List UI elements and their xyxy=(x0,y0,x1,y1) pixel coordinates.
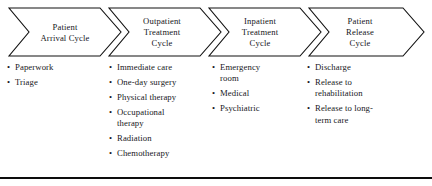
list-item-line: Release to long- xyxy=(315,103,417,114)
detail-column-outpatient-treatment-cycle: • Immediate care • One-day surgery • Phy… xyxy=(109,62,209,163)
list-item: • Physical therapy xyxy=(109,92,209,103)
bullet-dot-icon: • xyxy=(7,62,10,73)
chevron-stage-band: Patient Arrival Cycle Outpatient Treatme… xyxy=(0,0,432,62)
list-item: • Radiation xyxy=(109,133,209,144)
list-item: • Triage xyxy=(7,77,105,88)
process-flow-diagram: Patient Arrival Cycle Outpatient Treatme… xyxy=(0,0,432,186)
chevron-shape-stage-1[interactable] xyxy=(9,8,121,56)
list-item-line: Chemotherapy xyxy=(117,148,209,159)
list-item-line: rehabilitation xyxy=(315,88,417,99)
bullet-dot-icon: • xyxy=(109,133,112,144)
list-item-line: term care xyxy=(315,115,417,126)
chevron-shape-stage-4[interactable] xyxy=(309,8,424,56)
list-item: • Release to long- term care xyxy=(307,103,417,126)
chevron-shape-stage-2[interactable] xyxy=(109,8,221,56)
list-item-line: Occupational xyxy=(117,107,209,118)
chevron-shape-stage-3[interactable] xyxy=(209,8,321,56)
list-item-line: Release to xyxy=(315,77,417,88)
bullet-dot-icon: • xyxy=(109,62,112,73)
bullet-dot-icon: • xyxy=(109,148,112,159)
detail-column-patient-release-cycle: • Discharge • Release to rehabilitation … xyxy=(307,62,417,130)
bottom-divider xyxy=(0,177,432,179)
list-item-line: Medical xyxy=(220,88,304,99)
list-item-line: Physical therapy xyxy=(117,92,209,103)
bullet-dot-icon: • xyxy=(212,88,215,99)
list-item-line: Emergency xyxy=(220,62,304,73)
list-item-line: Radiation xyxy=(117,133,209,144)
bullet-dot-icon: • xyxy=(109,92,112,103)
bullet-dot-icon: • xyxy=(307,77,310,88)
list-item: • Emergency room xyxy=(212,62,304,85)
list-item-line: therapy xyxy=(117,118,209,129)
bullet-dot-icon: • xyxy=(212,62,215,73)
bullet-dot-icon: • xyxy=(7,77,10,88)
chevron-shapes-svg xyxy=(0,0,432,62)
list-item-line: Paperwork xyxy=(15,62,105,73)
list-item-line: Psychiatric xyxy=(220,103,304,114)
list-item: • Paperwork xyxy=(7,62,105,73)
list-item: • Immediate care xyxy=(109,62,209,73)
list-item: • Discharge xyxy=(307,62,417,73)
list-item-line: room xyxy=(220,73,304,84)
detail-column-inpatient-treatment-cycle: • Emergency room • Medical • Psychiatric xyxy=(212,62,304,118)
list-item-line: Discharge xyxy=(315,62,417,73)
list-item-line: Triage xyxy=(15,77,105,88)
bullet-dot-icon: • xyxy=(307,103,310,114)
list-item-line: One-day surgery xyxy=(117,77,209,88)
list-item: • Psychiatric xyxy=(212,103,304,114)
bullet-dot-icon: • xyxy=(212,103,215,114)
bullet-dot-icon: • xyxy=(109,107,112,118)
list-item: • Release to rehabilitation xyxy=(307,77,417,100)
bullet-dot-icon: • xyxy=(307,62,310,73)
stage-detail-columns: • Paperwork • Triage • Immediate care • … xyxy=(0,62,432,172)
list-item: • Occupational therapy xyxy=(109,107,209,130)
list-item: • One-day surgery xyxy=(109,77,209,88)
list-item: • Chemotherapy xyxy=(109,148,209,159)
bullet-dot-icon: • xyxy=(109,77,112,88)
list-item: • Medical xyxy=(212,88,304,99)
list-item-line: Immediate care xyxy=(117,62,209,73)
detail-column-patient-arrival-cycle: • Paperwork • Triage xyxy=(7,62,105,92)
